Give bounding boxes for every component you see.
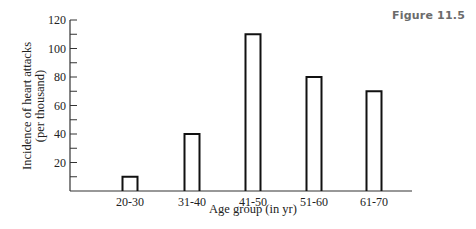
bar-chart: 2040608010012020-3031-4041-5051-6061-70A… <box>0 0 476 229</box>
bar-51-60 <box>307 77 322 191</box>
bar-61-70 <box>367 91 382 191</box>
bar-20-30 <box>123 177 138 191</box>
bar-31-40 <box>185 134 200 191</box>
y-axis-title: Incidence of heart attacks <box>20 42 34 170</box>
y-tick-label: 60 <box>54 99 66 113</box>
y-tick-label: 120 <box>48 13 66 27</box>
x-axis-title: Age group (in yr) <box>209 202 297 216</box>
y-tick-label: 40 <box>54 127 66 141</box>
y-tick-label: 80 <box>54 70 66 84</box>
y-axis-subtitle: (per thousand) <box>33 70 47 143</box>
bar-41-50 <box>246 34 261 191</box>
y-tick-label: 20 <box>54 156 66 170</box>
x-tick-label: 51-60 <box>300 195 328 209</box>
x-tick-label: 61-70 <box>360 195 388 209</box>
x-tick-label: 31-40 <box>178 195 206 209</box>
x-tick-label: 20-30 <box>116 195 144 209</box>
y-tick-label: 100 <box>48 42 66 56</box>
